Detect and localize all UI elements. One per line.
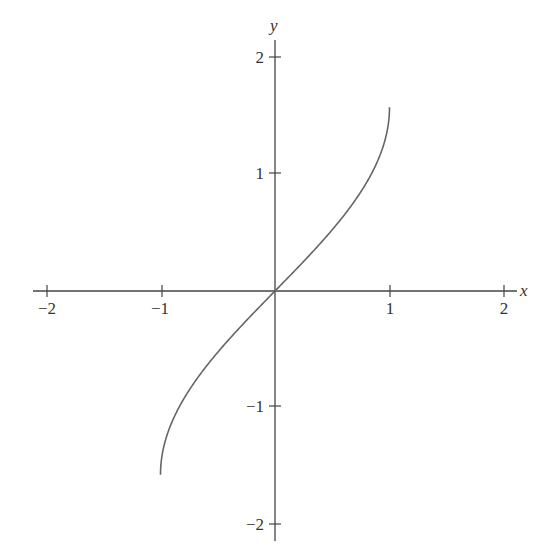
y-axis-label: y <box>268 16 278 35</box>
x-axis-label: x <box>519 281 528 300</box>
y-tick-label: −1 <box>246 397 264 416</box>
x-tick-label: −2 <box>38 299 56 318</box>
x-tick-label: 2 <box>500 299 509 318</box>
y-tick-label: −2 <box>246 515 264 534</box>
x-tick-label: 1 <box>386 299 395 318</box>
y-tick-label: 2 <box>256 48 265 67</box>
y-tick-label: 1 <box>256 164 265 183</box>
arcsin-plot: −2 −1 1 2 2 1 −1 −2 x y <box>0 0 560 548</box>
x-tick-label: −1 <box>151 299 169 318</box>
